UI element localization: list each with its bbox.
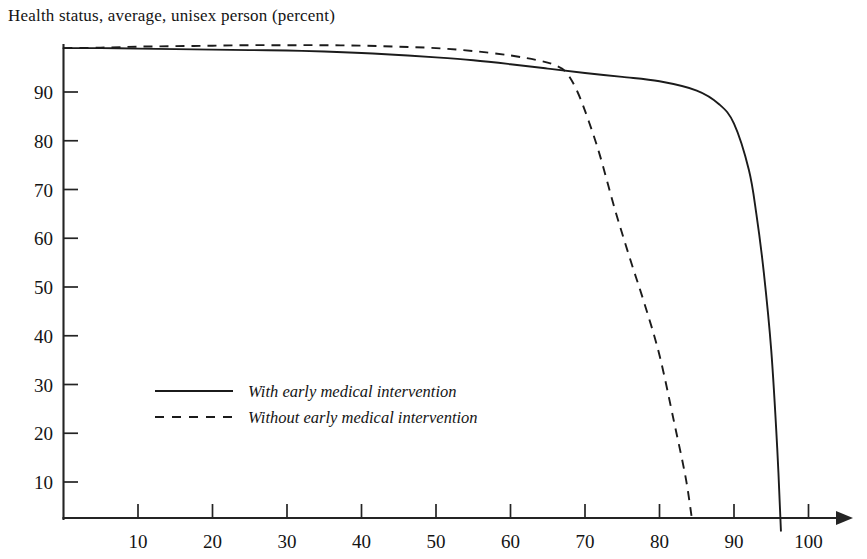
y-tick-label: 90: [34, 82, 53, 103]
x-tick-label: 80: [650, 531, 669, 552]
legend-label-1: With early medical intervention: [248, 382, 457, 401]
x-tick-label: 50: [427, 531, 446, 552]
y-tick-label: 40: [34, 326, 53, 347]
y-tick-label: 10: [34, 472, 53, 493]
y-tick-label: 70: [34, 180, 53, 201]
x-tick-label: 60: [501, 531, 520, 552]
x-tick-label: 40: [352, 531, 371, 552]
y-tick-label: 60: [34, 228, 53, 249]
series-line-without-intervention: [64, 45, 692, 516]
chart-plot-area: 102030405060708090 102030405060708090100…: [0, 0, 867, 559]
legend-label-2: Without early medical intervention: [248, 408, 478, 427]
x-axis-arrow-icon: [836, 511, 853, 525]
x-axis-ticks: 102030405060708090100: [129, 504, 823, 552]
x-tick-label: 10: [129, 531, 148, 552]
y-tick-label: 80: [34, 131, 53, 152]
y-tick-label: 50: [34, 277, 53, 298]
x-tick-label: 70: [576, 531, 595, 552]
y-axis-ticks: 102030405060708090: [34, 82, 78, 493]
x-tick-label: 100: [794, 531, 823, 552]
y-tick-label: 20: [34, 423, 53, 444]
x-tick-label: 20: [203, 531, 222, 552]
y-tick-label: 30: [34, 375, 53, 396]
x-tick-label: 30: [278, 531, 297, 552]
chart-legend: With early medical interventionWithout e…: [155, 382, 478, 427]
series-line-with-intervention: [64, 48, 781, 531]
x-tick-label: 90: [725, 531, 744, 552]
chart-figure: Health status, average, unisex person (p…: [0, 0, 867, 559]
